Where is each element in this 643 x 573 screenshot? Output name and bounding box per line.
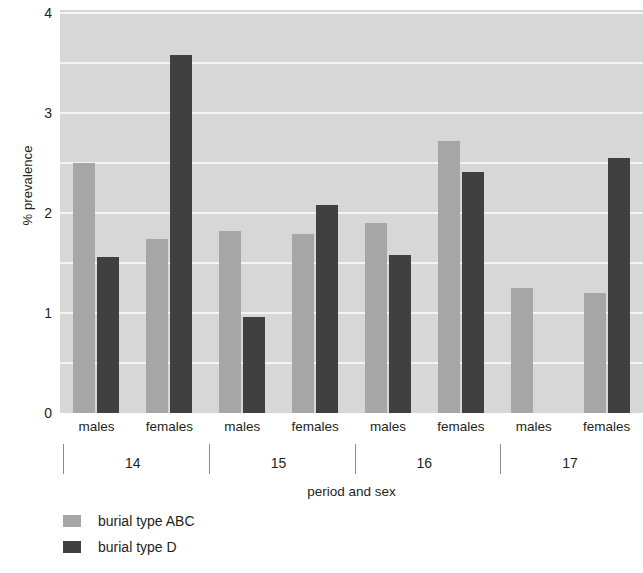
period-label: 16 xyxy=(352,454,498,472)
bar xyxy=(219,231,241,413)
sex-label: males xyxy=(60,418,133,436)
y-tick-label: 3 xyxy=(26,106,52,120)
legend-label: burial type D xyxy=(98,539,177,555)
bar xyxy=(608,158,630,413)
legend-label: burial type ABC xyxy=(98,513,195,529)
bar-chart-figure: % prevalence 01234 malesfemalesmalesfema… xyxy=(0,0,643,573)
bar xyxy=(462,172,484,413)
y-tick-label: 1 xyxy=(26,306,52,320)
x-axis-sex-labels: malesfemalesmalesfemalesmalesfemalesmale… xyxy=(60,418,643,440)
sex-label: males xyxy=(497,418,570,436)
legend-item: burial type D xyxy=(60,534,380,560)
legend-swatch xyxy=(63,515,81,527)
bar xyxy=(511,288,533,413)
bar xyxy=(292,234,314,413)
x-axis-period-row: 14151617 xyxy=(60,442,643,480)
bar xyxy=(73,163,95,413)
bar xyxy=(316,205,338,413)
y-tick-label: 0 xyxy=(26,406,52,420)
bar xyxy=(146,239,168,413)
period-label: 14 xyxy=(60,454,206,472)
period-label: 17 xyxy=(497,454,643,472)
sex-label: males xyxy=(206,418,279,436)
bar xyxy=(170,55,192,413)
y-tick-label: 2 xyxy=(26,206,52,220)
sex-label: females xyxy=(424,418,497,436)
bar xyxy=(438,141,460,413)
bar xyxy=(584,293,606,413)
legend-item: burial type ABC xyxy=(60,508,380,534)
x-axis-title: period and sex xyxy=(60,484,643,499)
sex-label: females xyxy=(133,418,206,436)
y-tick-label: 4 xyxy=(26,6,52,20)
bar xyxy=(243,317,265,413)
bars-layer xyxy=(60,10,643,413)
y-axis-tick-labels: 01234 xyxy=(26,0,52,420)
bar xyxy=(97,257,119,413)
legend: burial type ABCburial type D xyxy=(60,508,380,560)
sex-label: females xyxy=(570,418,643,436)
sex-label: females xyxy=(279,418,352,436)
bar xyxy=(365,223,387,413)
period-label: 15 xyxy=(206,454,352,472)
legend-swatch xyxy=(63,541,81,553)
bar xyxy=(389,255,411,413)
plot-area xyxy=(60,10,643,413)
sex-label: males xyxy=(352,418,425,436)
